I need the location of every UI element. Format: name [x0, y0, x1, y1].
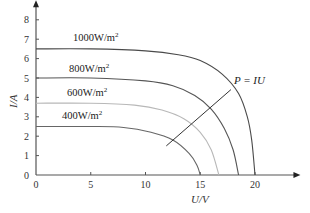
- curve-label: 1000W/m2: [73, 31, 119, 43]
- y-tick-label: 1: [24, 150, 29, 161]
- y-tick-label: 4: [24, 92, 29, 103]
- y-tick-label: 7: [24, 34, 29, 45]
- x-tick-label: 10: [141, 179, 151, 190]
- iv-curve-chart: 05101520012345678 1000W/m2800W/m2600W/m2…: [0, 0, 310, 213]
- y-tick-label: 3: [24, 111, 29, 122]
- y-axis-arrow-icon: [33, 0, 39, 7]
- y-tick-label: 0: [24, 170, 29, 181]
- curve-label: 400W/m2: [62, 109, 103, 121]
- y-tick-label: 8: [24, 14, 29, 25]
- x-tick-label: 5: [88, 179, 93, 190]
- iv-curve: [36, 126, 200, 175]
- x-tick-label: 15: [195, 179, 205, 190]
- y-tick-label: 2: [24, 131, 29, 142]
- y-axis-label: I/A: [7, 94, 19, 109]
- y-tick-label: 5: [24, 73, 29, 84]
- x-tick-label: 20: [250, 179, 260, 190]
- curve-label: 800W/m2: [69, 62, 110, 74]
- power-label: P = IU: [233, 74, 266, 86]
- y-tick-label: 6: [24, 53, 29, 64]
- x-axis-label: U/V: [191, 193, 210, 205]
- axes: 05101520012345678: [24, 0, 300, 190]
- x-axis-arrow-icon: [293, 172, 300, 178]
- curve-label: 600W/m2: [67, 86, 108, 98]
- x-tick-label: 0: [34, 179, 39, 190]
- curve-labels: 1000W/m2800W/m2600W/m2400W/m2: [62, 31, 119, 121]
